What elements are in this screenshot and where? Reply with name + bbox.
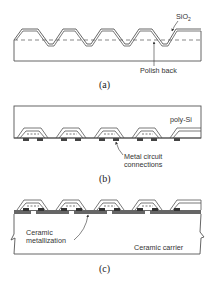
sio2-label: SiO2 xyxy=(176,12,191,22)
panel-b: poly-Si Metal circuit connections (b) xyxy=(14,106,201,185)
poly-si-label: poly-Si xyxy=(170,115,192,124)
wafer-substrate xyxy=(14,31,201,61)
polish-back-label: Polish back xyxy=(140,66,177,75)
silicon-islands xyxy=(17,128,201,138)
process-diagram: SiO2 Polish back (a) xyxy=(0,0,213,281)
panel-a: SiO2 Polish back (a) xyxy=(14,12,201,91)
flipped-islands xyxy=(17,200,201,210)
metal-label-line2: connections xyxy=(124,160,163,169)
metallization-leader-arrow xyxy=(74,215,88,240)
metallization-label-line2: metallization xyxy=(26,236,66,245)
metal-leader-arrow xyxy=(116,142,123,155)
panel-c: Ceramic metallization Ceramic carrier (c… xyxy=(11,200,204,275)
ceramic-carrier-label: Ceramic carrier xyxy=(134,243,184,252)
caption-b: (b) xyxy=(99,173,111,185)
caption-a: (a) xyxy=(99,79,110,91)
caption-c: (c) xyxy=(99,263,110,275)
sio2-leader-arrow xyxy=(172,21,178,31)
